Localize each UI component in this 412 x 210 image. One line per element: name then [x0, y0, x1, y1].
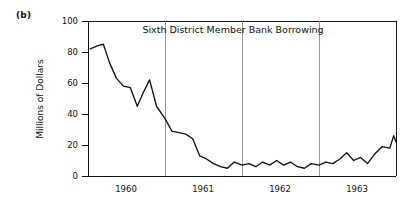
- x-tick-label-1963: 1963: [346, 184, 368, 194]
- chart-title: Sixth District Member Bank Borrowing: [142, 24, 323, 35]
- y-tick-label-80: 80: [67, 47, 78, 57]
- x-tick-label-1960: 1960: [115, 184, 137, 194]
- x-axis-ticks: 1960 1961 1962 1963: [115, 184, 368, 194]
- y-tick-label-0: 0: [73, 171, 78, 181]
- data-series-line: [90, 44, 396, 168]
- x-tick-label-1962: 1962: [269, 184, 291, 194]
- y-tick-label-100: 100: [62, 16, 78, 26]
- figure-container: (b) 0 20 40 60 80 100 1: [0, 0, 412, 210]
- y-tick-label-20: 20: [67, 140, 78, 150]
- x-tick-label-1961: 1961: [192, 184, 214, 194]
- y-axis-title: Millions of Dollars: [35, 59, 45, 139]
- year-gridlines: [165, 21, 319, 176]
- y-tick-label-40: 40: [67, 109, 78, 119]
- line-chart: 0 20 40 60 80 100 1960 1961 1962 1963 Si…: [0, 0, 412, 210]
- y-axis-ticks: 0 20 40 60 80 100: [62, 16, 88, 181]
- y-tick-label-60: 60: [67, 78, 78, 88]
